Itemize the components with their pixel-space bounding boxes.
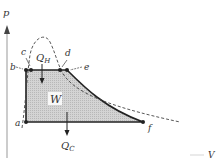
point-f bbox=[141, 120, 145, 124]
x-axis-label: V bbox=[208, 150, 216, 160]
y-axis-label: p bbox=[3, 7, 10, 18]
heat-in-label: QH bbox=[36, 52, 51, 65]
label-d: d bbox=[65, 48, 71, 58]
work-label: W bbox=[50, 93, 63, 106]
point-b bbox=[24, 68, 28, 72]
point-d bbox=[58, 68, 62, 72]
pv-diagram: p V b c d e a f QH W QC bbox=[0, 0, 223, 160]
point-c bbox=[29, 68, 33, 72]
label-b: b bbox=[10, 62, 16, 72]
label-f: f bbox=[147, 123, 153, 133]
point-e bbox=[65, 68, 69, 72]
point-a bbox=[24, 120, 28, 124]
label-a: a bbox=[15, 118, 20, 128]
y-axis bbox=[4, 25, 10, 158]
label-e: e bbox=[84, 62, 89, 72]
label-c: c bbox=[21, 47, 26, 57]
heat-out-label: QC bbox=[61, 140, 75, 153]
y-axis-arrow-icon bbox=[4, 25, 10, 34]
